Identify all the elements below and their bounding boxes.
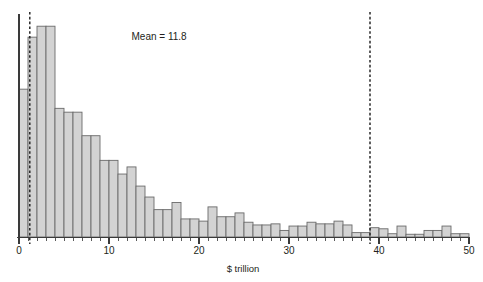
histogram-bar xyxy=(136,186,145,237)
histogram-bar xyxy=(46,26,55,237)
histogram-bar xyxy=(397,226,406,237)
histogram-bar xyxy=(280,230,289,237)
x-axis-title: $ trillion xyxy=(227,263,260,274)
histogram-bar xyxy=(442,226,451,237)
histogram-bars-group xyxy=(19,26,469,237)
histogram-bar xyxy=(127,167,136,237)
histogram-bar xyxy=(64,112,73,237)
histogram-bar xyxy=(415,234,424,237)
histogram-bar xyxy=(298,226,307,237)
histogram-bar xyxy=(451,234,460,237)
histogram-bar xyxy=(289,226,298,237)
x-axis-tick-label: 40 xyxy=(373,245,385,256)
histogram-bar xyxy=(370,228,379,237)
histogram-bar xyxy=(226,217,235,237)
histogram-bar xyxy=(91,136,100,237)
histogram-bar xyxy=(181,219,190,237)
x-axis-ticks-group xyxy=(19,238,469,244)
histogram-bar xyxy=(154,210,163,237)
mean-annotation-label: Mean = 11.8 xyxy=(132,31,188,42)
histogram-bar xyxy=(424,230,433,237)
histogram-bar xyxy=(334,221,343,237)
histogram-bar xyxy=(307,222,316,237)
histogram-bar xyxy=(208,207,217,237)
top-margin-strip xyxy=(0,0,483,7)
histogram-bar xyxy=(460,234,469,237)
x-axis-tick-label: 50 xyxy=(463,245,475,256)
histogram-bar xyxy=(163,210,172,237)
histogram-bar xyxy=(361,233,370,237)
histogram-bar xyxy=(55,108,64,237)
histogram-bar xyxy=(316,224,325,237)
histogram-bar xyxy=(172,203,181,237)
histogram-bar xyxy=(406,234,415,237)
histogram-bar xyxy=(325,224,334,237)
x-axis-tick-label: 0 xyxy=(16,245,22,256)
histogram-bar xyxy=(190,219,199,237)
histogram-bar xyxy=(145,197,154,237)
histogram-bar xyxy=(262,225,271,237)
x-axis-tick-label: 30 xyxy=(283,245,295,256)
histogram-bar xyxy=(73,112,82,237)
histogram-bar xyxy=(109,160,118,237)
histogram-bar xyxy=(379,229,388,237)
histogram-bar xyxy=(37,26,46,237)
histogram-bar xyxy=(253,225,262,237)
histogram-bar xyxy=(271,224,280,237)
histogram-bar xyxy=(19,89,28,237)
x-axis-tick-labels-group: 01020304050 xyxy=(16,245,475,256)
histogram-bar xyxy=(217,217,226,237)
histogram-bar xyxy=(388,234,397,237)
histogram-bar xyxy=(118,174,127,237)
histogram-figure: 01020304050 $ trillion Mean = 11.8 xyxy=(0,0,483,282)
histogram-bar xyxy=(82,136,91,237)
histogram-chart-svg: 01020304050 $ trillion Mean = 11.8 xyxy=(0,0,483,282)
histogram-bar xyxy=(433,230,442,237)
histogram-bar xyxy=(100,160,109,237)
histogram-bar xyxy=(352,233,361,237)
x-axis-tick-label: 20 xyxy=(193,245,205,256)
histogram-bar xyxy=(343,225,352,237)
histogram-bar xyxy=(235,213,244,237)
x-axis-tick-label: 10 xyxy=(103,245,115,256)
histogram-bar xyxy=(199,221,208,237)
histogram-bar xyxy=(244,222,253,237)
